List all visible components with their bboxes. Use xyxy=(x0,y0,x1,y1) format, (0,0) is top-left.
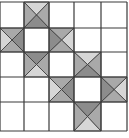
quilt-diagram xyxy=(0,0,129,138)
